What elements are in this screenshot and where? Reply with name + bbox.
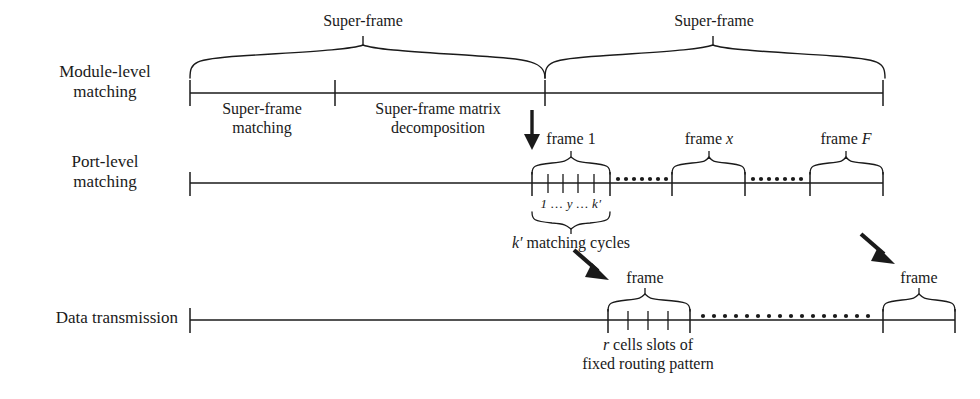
super-frame-matching-line1: Super-frame [222,100,302,119]
frame-x-prefix: frame [685,130,726,147]
cell-slots-caption: r cells slots of fixed routing pattern [582,336,714,374]
super-frame-matrix-decomposition-label: Super-frame matrix decomposition [375,100,500,138]
port-level-row-label: Port-level matching [71,152,138,192]
cell-slots-caption-rest: cells slots of [609,336,693,353]
frameF-to-data-arrow [861,234,895,264]
cell-slots-caption-line2: fixed routing pattern [582,355,714,374]
super-frame-matching-label: Super-frame matching [222,100,302,138]
super-frame-brace-2 [545,36,885,78]
port-ellipsis-1 [616,177,668,181]
port-level-row [190,151,883,234]
data-transmission-row-label: Data transmission [56,308,178,328]
decomposition-arrow [524,110,540,150]
diagram-canvas [0,0,980,399]
super-frame-label-2: Super-frame [674,12,754,31]
port-level-label-line1: Port-level [71,152,138,172]
matching-cycles-caption: k′ matching cycles [512,234,630,253]
frame-x-label: frame x [685,130,733,149]
matching-cycles-variable: k′ [512,234,523,251]
super-frame-matching-line2: matching [222,119,302,138]
super-frame-brace-1 [190,36,545,78]
port-ellipsis-2 [751,177,803,181]
super-frame-label-1: Super-frame [323,12,403,31]
matching-cycle-numbers: 1 … y … k′ [540,196,601,211]
cell-slots-caption-line1: r cells slots of [582,336,714,355]
matching-cycles-caption-rest: matching cycles [523,234,631,251]
data-frame-left-label: frame [626,269,663,288]
frame-x-variable: x [726,130,733,147]
frame1-to-data-arrow [574,250,609,280]
data-frame-right-label: frame [900,269,937,288]
port-level-label-line2: matching [71,172,138,192]
frame-F-prefix: frame [820,130,861,147]
frame-x-brace [672,151,745,174]
module-level-label-line1: Module-level [59,62,151,82]
data-ellipsis [701,314,870,318]
frame-1-label: frame 1 [546,130,595,149]
module-level-row-label: Module-level matching [59,62,151,102]
timing-hierarchy-diagram: Module-level matching Super-frame Super-… [0,0,980,399]
super-frame-matrix-line1: Super-frame matrix [375,100,500,119]
frame-F-variable: F [862,130,872,147]
frame-F-brace [810,151,883,174]
frame-F-label: frame F [820,130,871,149]
data-transmission-row [190,288,955,333]
module-level-row [190,36,885,106]
matching-cycles-brace [532,212,610,234]
data-frame-left-brace [608,288,690,311]
super-frame-matrix-line2: decomposition [375,119,500,138]
module-level-label-line2: matching [59,82,151,102]
frame-1-brace [532,151,610,174]
data-frame-right-brace [883,288,955,311]
